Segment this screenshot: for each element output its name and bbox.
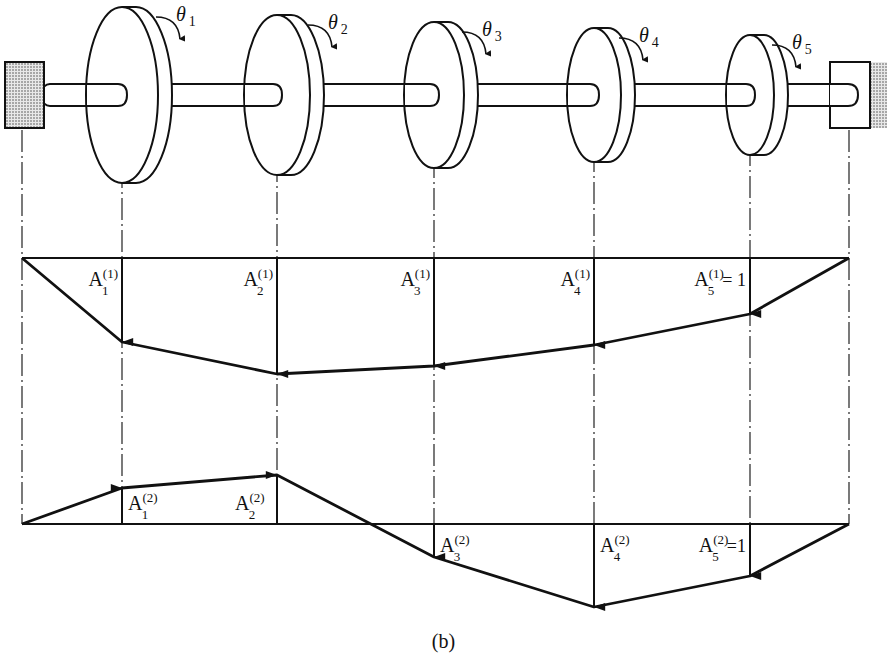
right-fixed-support (830, 62, 887, 128)
mode-shape-2: A(2)1A(2)2A(2)3A(2)4A(2)5=1 (22, 475, 849, 607)
mode-shape-1: A(1)1A(1)2A(1)3A(1)4A(1)5= 1 (22, 258, 849, 374)
amplitude-label-2: A(2)2 (235, 490, 265, 522)
amplitude-label-1: A(1)1 (88, 266, 118, 298)
amplitude-label-4: A(2)4 (600, 532, 630, 564)
amplitude-label-1: A(2)1 (128, 490, 158, 522)
theta-label-1: θ1 (176, 3, 196, 29)
amplitude-label-4: A(1)4 (560, 266, 590, 298)
theta-label-3: θ3 (482, 18, 502, 44)
amplitude-label-2: A(1)2 (243, 266, 273, 298)
projection-lines (22, 130, 849, 524)
left-fixed-support (5, 62, 44, 128)
theta-label-2: θ2 (328, 11, 348, 37)
figure-caption: (b) (0, 630, 887, 653)
theta-label-4: θ4 (639, 24, 659, 50)
torsional-system-diagram: θ1θ2θ3θ4θ5 A(1)1A(1)2A(1)3A(1)4A(1)5= 1 … (0, 0, 887, 667)
amplitude-label-3: A(1)3 (400, 266, 430, 298)
amplitude-label-5: A(2)5=1 (699, 532, 746, 564)
theta-label-5: θ5 (792, 31, 812, 57)
amplitude-label-5: A(1)5= 1 (694, 266, 746, 298)
